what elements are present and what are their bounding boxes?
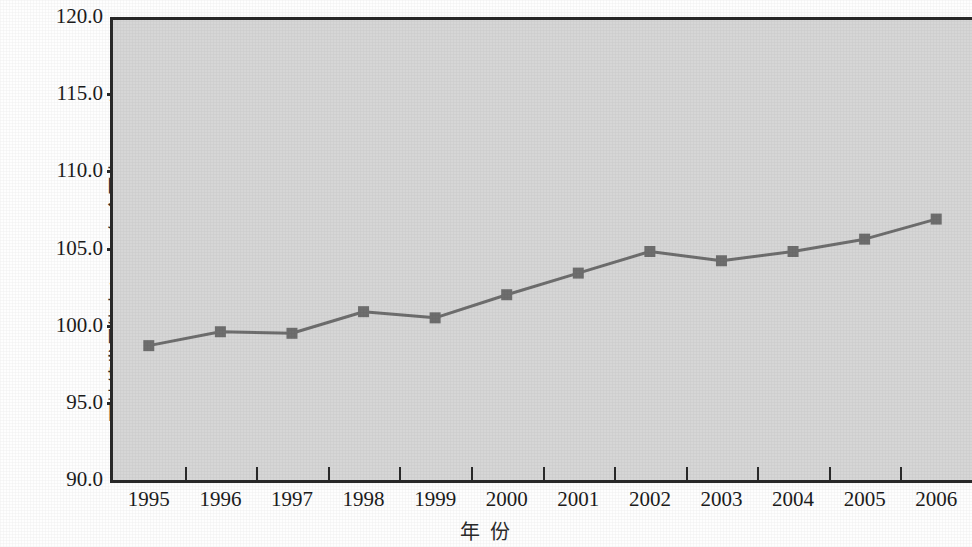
y-axis-tick-label: 105.0	[35, 238, 103, 259]
data-point-marker: 2003: 104.4	[716, 255, 727, 266]
x-axis-tick-label: 2003	[681, 489, 761, 510]
y-axis-tick-label: 110.0	[35, 160, 103, 181]
y-axis-tick-label: 100.0	[35, 315, 103, 336]
x-axis-tick-label: 2000	[467, 489, 547, 510]
x-axis-tick-labels: 1995199619971998199920002001200220032004…	[110, 489, 972, 519]
x-axis-tick-mark	[686, 467, 688, 480]
data-point-marker: 1997: 99.7	[286, 328, 297, 339]
data-point-marker: 1999: 100.7	[430, 312, 441, 323]
data-point-marker: 2006: 107.1	[931, 214, 942, 225]
x-axis-tick-label: 2004	[753, 489, 833, 510]
data-point-marker: 2004: 105	[788, 246, 799, 257]
y-axis-tick-label: 120.0	[35, 6, 103, 27]
x-axis-tick-label: 1995	[109, 489, 189, 510]
x-axis-tick-mark	[543, 467, 545, 480]
sustainability-line-chart: 可持续发展能力(1995年全国为100.0) 120.0115.0110.010…	[0, 0, 972, 547]
data-point-marker: 2000: 102.2	[501, 289, 512, 300]
data-point-marker: 2002: 105	[644, 246, 655, 257]
x-axis-tick-mark	[900, 467, 902, 480]
x-axis-tick-mark	[256, 467, 258, 480]
plot-area: 1995: 98.91996: 99.81997: 99.71998: 101.…	[110, 17, 972, 483]
x-axis-tick-mark	[185, 467, 187, 480]
data-point-marker: 1998: 101.1	[358, 306, 369, 317]
x-axis-title: 年 份	[0, 516, 972, 545]
x-axis-tick-label: 2006	[896, 489, 972, 510]
x-axis-tick-mark	[614, 467, 616, 480]
x-axis-tick-mark	[757, 467, 759, 480]
y-axis-tick-label: 90.0	[35, 469, 103, 490]
x-axis-tick-label: 2002	[610, 489, 690, 510]
data-point-marker: 2005: 105.8	[859, 234, 870, 245]
x-axis-tick-mark	[399, 467, 401, 480]
x-axis-tick-mark	[829, 467, 831, 480]
series-line-svg: 1995: 98.91996: 99.81997: 99.71998: 101.…	[113, 20, 972, 483]
x-axis-tick-label: 2001	[538, 489, 618, 510]
x-axis-tick-label: 1999	[395, 489, 475, 510]
y-axis-tick-label: 95.0	[35, 392, 103, 413]
data-point-marker: 1995: 98.9	[143, 340, 154, 351]
y-axis-tick-labels: 120.0115.0110.0105.0100.095.090.0	[28, 0, 103, 547]
series-line	[149, 219, 936, 346]
x-axis-tick-label: 1996	[180, 489, 260, 510]
x-axis-tick-label: 2005	[825, 489, 905, 510]
data-point-marker: 2001: 103.6	[573, 268, 584, 279]
y-axis-tick-label: 115.0	[35, 83, 103, 104]
x-axis-tick-mark	[328, 467, 330, 480]
x-axis-tick-label: 1998	[324, 489, 404, 510]
data-point-marker: 1996: 99.8	[215, 326, 226, 337]
x-axis-tick-mark	[471, 467, 473, 480]
x-axis-tick-label: 1997	[252, 489, 332, 510]
